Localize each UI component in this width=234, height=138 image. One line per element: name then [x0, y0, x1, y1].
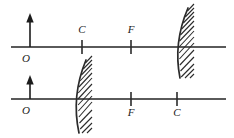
lower-concave-mirror-icon [76, 56, 92, 133]
upper-center-label: C [78, 23, 86, 35]
upper-object-arrow [26, 13, 33, 47]
lower-object-label: O [22, 104, 30, 116]
upper-concave-mirror-icon [178, 4, 194, 78]
lower-center-label: C [173, 106, 181, 118]
upper-mirror-hatching [179, 4, 194, 78]
upper-object-label: O [22, 52, 30, 64]
lower-mirror-hatching [78, 56, 92, 133]
lower-diagram: O F C [11, 56, 226, 133]
upper-arrow-head-icon [26, 13, 33, 23]
lower-arrow-head-icon [26, 75, 33, 85]
lower-focus-label: F [127, 106, 135, 118]
optics-figure: O C F [0, 0, 234, 138]
ray-diagram-canvas: O C F [0, 0, 234, 138]
lower-object-arrow [26, 75, 33, 99]
upper-diagram: O C F [11, 4, 226, 78]
upper-focus-label: F [127, 23, 135, 35]
